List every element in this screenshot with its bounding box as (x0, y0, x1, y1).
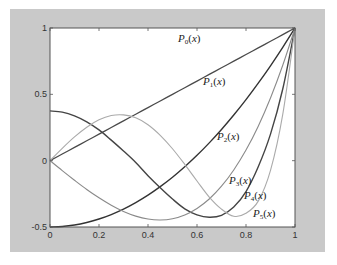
y-tick-label: 1 (42, 23, 47, 33)
y-tick-label: 0 (42, 156, 47, 166)
curve-label-0: P0(x) (177, 32, 201, 46)
y-tick-label: 0.5 (34, 89, 47, 99)
x-tick-label: 0 (47, 230, 52, 240)
curve-label-3: P3(x) (228, 174, 252, 188)
x-tick-label: 0.4 (142, 230, 155, 240)
legendre-chart: 00.20.40.60.81-0.500.51 P0(x)P1(x)P2(x)P… (0, 0, 337, 265)
x-tick-label: 1 (292, 230, 297, 240)
y-tick-label: -0.5 (31, 222, 47, 232)
curve-label-5: P5(x) (252, 207, 276, 221)
x-tick-label: 0.6 (191, 230, 204, 240)
curve-label-2: P2(x) (216, 130, 240, 144)
curve-label-4: P4(x) (243, 189, 267, 203)
x-tick-label: 0.8 (240, 230, 253, 240)
x-tick-label: 0.2 (93, 230, 106, 240)
curve-label-1: P1(x) (202, 75, 226, 89)
